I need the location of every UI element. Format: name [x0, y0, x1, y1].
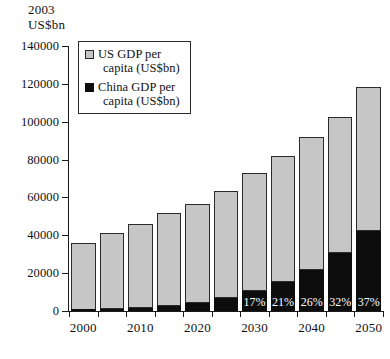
gdp-stacked-bar-chart: 2003 US$bn 02000040000600008000010000012…: [0, 0, 390, 359]
bar-segment-china-gdp[interactable]: [185, 303, 210, 311]
y-axis-tick-label: 20000: [27, 266, 59, 281]
legend-label-china-gdp-line2: capita (US$bn): [98, 94, 180, 108]
y-axis-tick-label: 60000: [27, 190, 59, 205]
legend-label-us-gdp-line1: US GDP per: [98, 47, 161, 61]
x-axis-tick: [126, 311, 127, 317]
x-axis-tick: [155, 311, 156, 317]
chart-legend: US GDP per capita (US$bn) China GDP per …: [78, 41, 191, 114]
x-axis-tick: [269, 311, 270, 317]
bar-group[interactable]: 21%: [271, 156, 296, 311]
bar-group[interactable]: 26%: [299, 137, 324, 311]
x-axis-tick-label: 2030: [241, 320, 268, 336]
bar-segment-us-gdp[interactable]: [128, 224, 153, 308]
x-axis-tick: [297, 311, 298, 317]
y-axis-tick: [62, 273, 69, 274]
bar-segment-china-gdp[interactable]: 37%: [356, 231, 381, 311]
bar-group[interactable]: [100, 233, 125, 311]
x-axis-tick-label: 2050: [355, 320, 382, 336]
y-axis-tick: [62, 160, 69, 161]
y-axis-tick-label: 0: [53, 304, 59, 319]
y-axis-tick-label: 120000: [21, 76, 59, 91]
legend-item-us-gdp: US GDP per capita (US$bn): [85, 47, 184, 75]
legend-label-us-gdp-line2: capita (US$bn): [98, 61, 180, 75]
legend-label-us-gdp: US GDP per capita (US$bn): [98, 47, 180, 75]
legend-swatch-us-gdp-icon: [85, 50, 94, 59]
y-axis-title: 2003 US$bn: [28, 2, 65, 32]
legend-label-china-gdp-line1: China GDP per: [98, 80, 175, 94]
x-axis-tick: [240, 311, 241, 317]
y-axis-tick: [62, 122, 69, 123]
bar-percent-label: 32%: [329, 296, 352, 309]
y-axis-tick-label: 100000: [21, 114, 59, 129]
bar-segment-china-gdp[interactable]: 32%: [328, 253, 353, 311]
bar-group[interactable]: [128, 224, 153, 311]
legend-label-china-gdp: China GDP per capita (US$bn): [98, 80, 180, 108]
x-axis-tick-label: 2000: [70, 320, 97, 336]
y-axis-tick: [62, 84, 69, 85]
bar-segment-us-gdp[interactable]: [328, 117, 353, 253]
y-axis-tick: [62, 311, 69, 312]
bar-group[interactable]: [71, 243, 96, 311]
x-axis-tick: [69, 311, 70, 317]
bar-segment-us-gdp[interactable]: [185, 204, 210, 304]
bar-percent-label: 17%: [243, 296, 266, 309]
x-axis-tick: [354, 311, 355, 317]
bar-segment-china-gdp[interactable]: 26%: [299, 270, 324, 311]
bar-group[interactable]: 17%: [242, 173, 267, 311]
bar-segment-us-gdp[interactable]: [214, 191, 239, 298]
x-axis-tick: [383, 311, 384, 317]
x-axis-tick: [183, 311, 184, 317]
x-axis-tick: [98, 311, 99, 317]
bar-percent-label: 26%: [300, 296, 323, 309]
bar-percent-label: 37%: [357, 296, 380, 309]
bar-group[interactable]: [214, 191, 239, 311]
bar-segment-us-gdp[interactable]: [356, 87, 381, 231]
bar-segment-china-gdp[interactable]: [157, 306, 182, 311]
bar-percent-label: 21%: [272, 296, 295, 309]
y-axis-tick-label: 80000: [27, 152, 59, 167]
bar-segment-china-gdp[interactable]: [100, 309, 125, 311]
x-axis-tick: [326, 311, 327, 317]
bar-group[interactable]: 32%: [328, 117, 353, 311]
y-axis-tick-label: 40000: [27, 228, 59, 243]
bar-group[interactable]: [185, 204, 210, 311]
bar-segment-us-gdp[interactable]: [157, 213, 182, 306]
bar-segment-china-gdp[interactable]: 21%: [271, 282, 296, 311]
y-axis-tick: [62, 235, 69, 236]
x-axis-tick-label: 2040: [298, 320, 325, 336]
bar-segment-china-gdp[interactable]: [71, 309, 96, 311]
bar-group[interactable]: [157, 213, 182, 311]
legend-item-china-gdp: China GDP per capita (US$bn): [85, 80, 184, 108]
bar-segment-us-gdp[interactable]: [71, 243, 96, 310]
bar-segment-us-gdp[interactable]: [271, 156, 296, 282]
legend-swatch-china-gdp-icon: [85, 83, 94, 92]
bar-segment-us-gdp[interactable]: [100, 233, 125, 309]
x-axis-tick-label: 2020: [184, 320, 211, 336]
bar-segment-us-gdp[interactable]: [242, 173, 267, 291]
y-axis-tick: [62, 46, 69, 47]
y-axis-tick: [62, 197, 69, 198]
y-axis-tick-label: 140000: [21, 39, 59, 54]
bar-segment-us-gdp[interactable]: [299, 137, 324, 270]
bar-group[interactable]: 37%: [356, 87, 381, 311]
bar-segment-china-gdp[interactable]: [128, 308, 153, 311]
x-axis-tick-label: 2010: [127, 320, 154, 336]
bar-segment-china-gdp[interactable]: 17%: [242, 291, 267, 311]
x-axis-tick: [212, 311, 213, 317]
bar-segment-china-gdp[interactable]: [214, 298, 239, 311]
